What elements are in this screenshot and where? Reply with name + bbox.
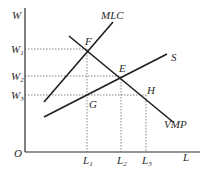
point-e-label: E [118,62,126,74]
y-tick-w1: W1 [11,43,24,57]
y-axis-label: W [12,9,22,21]
s-label: S [171,51,177,63]
monopsony-diagram: W L O W1 W2 W3 L1 L2 L3 MLC S VMP F E G … [0,0,210,171]
x-axis-label: L [182,151,189,163]
point-g-label: G [89,98,97,110]
mlc-curve [44,22,113,102]
origin-label: O [14,147,22,159]
point-f-label: F [84,35,92,47]
x-tick-l1: L1 [82,154,93,168]
x-tick-l3: L3 [141,154,152,168]
y-tick-w2: W2 [11,70,24,84]
x-tick-l2: L2 [116,154,127,168]
mlc-label: MLC [100,9,124,21]
y-tick-w3: W3 [11,89,24,103]
point-h-label: H [146,84,156,96]
vmp-label: VMP [164,118,187,130]
